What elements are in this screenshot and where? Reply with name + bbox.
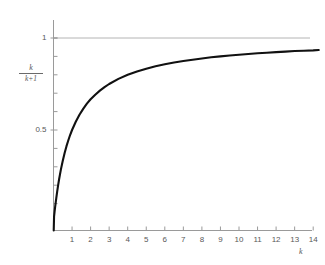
x-tick-label: 14 <box>305 236 321 244</box>
x-tick-label: 11 <box>250 236 266 244</box>
y-tick-label: 1 <box>21 34 47 42</box>
x-axis-label: k <box>299 247 303 256</box>
x-tick-label: 10 <box>231 236 247 244</box>
y-axis-label-numerator: k <box>16 63 46 73</box>
x-tick-label: 5 <box>138 236 154 244</box>
x-tick-label: 8 <box>194 236 210 244</box>
x-tick-label: 9 <box>212 236 228 244</box>
y-tick-label: 0.5 <box>21 126 47 134</box>
x-tick-label: 7 <box>175 236 191 244</box>
y-axis-label-denominator: k+1 <box>16 74 46 84</box>
data-series-curve <box>54 50 319 231</box>
chart-figure: 1234567891011121314 0.51 k k k+1 <box>0 0 325 265</box>
x-tick-label: 2 <box>83 236 99 244</box>
x-tick-label: 13 <box>287 236 303 244</box>
x-tick-label: 12 <box>268 236 284 244</box>
y-axis-label: k k+1 <box>16 63 46 84</box>
plot-canvas <box>0 0 325 265</box>
x-tick-label: 3 <box>101 236 117 244</box>
x-tick-label: 4 <box>120 236 136 244</box>
x-tick-label: 6 <box>157 236 173 244</box>
x-axis-ticks <box>72 227 313 231</box>
x-tick-label: 1 <box>64 236 80 244</box>
